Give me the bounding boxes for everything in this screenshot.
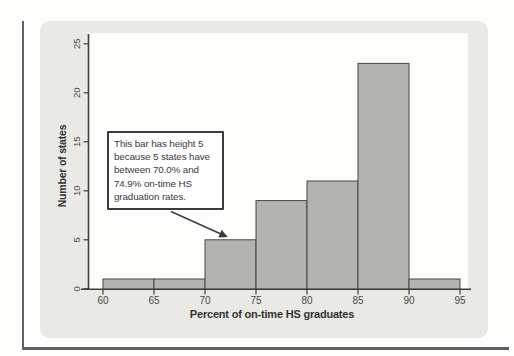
x-axis-title: Percent of on-time HS graduates: [190, 308, 354, 320]
annotation-line: This bar has height 5: [114, 137, 217, 150]
histogram-bar-75-79.9: [256, 201, 307, 290]
annotation-line: because 5 states have: [114, 150, 217, 163]
histogram-bar-90-94.9: [409, 279, 460, 289]
histogram-bar-70-74.9: [205, 240, 256, 289]
x-tick-label: 75: [250, 295, 262, 306]
x-tick-label: 70: [199, 295, 211, 306]
x-tick-label: 60: [97, 295, 109, 306]
y-tick-label: 25: [72, 39, 83, 50]
annotation-line: between 70.0% and: [114, 163, 217, 176]
x-tick-label: 90: [403, 295, 415, 306]
y-tick-label: 0: [72, 286, 83, 291]
x-tick-label: 85: [352, 295, 364, 306]
x-tick-label: 80: [301, 295, 313, 306]
textbook-figure-page: 60657075808590950510152025 Number of sta…: [0, 0, 514, 356]
histogram-bar-65-69.9: [154, 279, 205, 289]
x-tick-label: 65: [148, 295, 160, 306]
annotation-line: 74.9% on-time HS: [114, 177, 217, 190]
histogram-bar-80-84.9: [307, 181, 358, 289]
histogram-bar-60-64.9: [103, 279, 154, 289]
y-axis-title: Number of states: [56, 125, 68, 208]
annotation-callout: This bar has height 5 because 5 states h…: [107, 131, 224, 210]
annotation-line: graduation rates.: [114, 190, 217, 203]
y-tick-label: 5: [72, 237, 83, 242]
x-tick-label: 95: [454, 295, 466, 306]
y-tick-label: 15: [72, 137, 83, 148]
histogram-chart: 60657075808590950510152025: [0, 0, 514, 356]
y-tick-label: 20: [72, 88, 83, 99]
histogram-bar-85-89.9: [358, 63, 409, 289]
y-tick-label: 10: [72, 186, 83, 197]
callout-arrow: [171, 212, 227, 237]
